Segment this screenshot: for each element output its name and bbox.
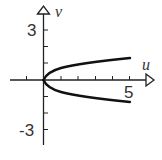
x-tick-label-5: 5 (124, 83, 133, 102)
upper-branch-curve (44, 58, 131, 80)
parametric-curve-plot: v u 5 3 -3 (0, 0, 162, 160)
y-tick-label-3: 3 (27, 21, 36, 40)
y-tick-label-neg3: -3 (19, 121, 34, 140)
lower-branch-curve (44, 80, 131, 102)
y-axis-arrow-icon (38, 6, 50, 14)
y-axis-label: v (55, 3, 63, 20)
x-axis-label: u (142, 56, 150, 73)
x-axis-arrow-icon (146, 74, 154, 86)
